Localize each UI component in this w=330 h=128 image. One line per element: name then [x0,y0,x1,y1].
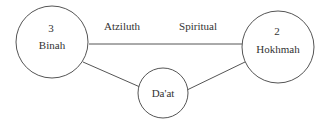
edge-label-atziluth: Atziluth [104,20,141,32]
edge-label-spiritual: Spiritual [179,20,217,32]
sefirot-diagram: 3 Binah 2 Hokhmah Da'at Atziluth Spiritu… [0,0,330,128]
binah-name: Binah [39,39,66,51]
hokhmah-name: Hokhmah [256,43,300,55]
edge-hokhmah-daat [187,62,245,90]
edge-binah-daat [83,62,140,87]
binah-number: 3 [48,22,54,34]
daat-name: Da'at [152,87,175,99]
hokhmah-number: 2 [274,25,280,37]
